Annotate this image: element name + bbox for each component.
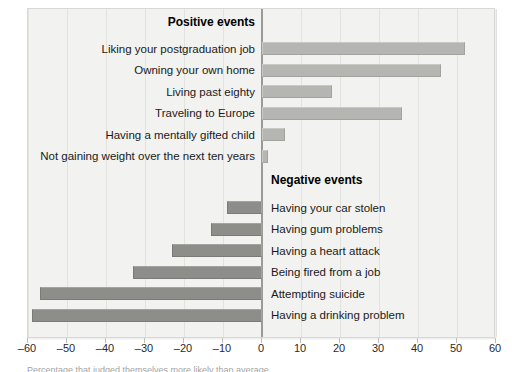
plot-area: Liking your postgraduation jobOwning you… (27, 8, 495, 338)
category-label: Owning your own home (134, 64, 255, 77)
category-label: Having a mentally gifted child (105, 129, 255, 142)
bar (262, 42, 465, 55)
bar (227, 201, 262, 214)
x-tick-label: 10 (283, 342, 317, 355)
x-tick-label: 20 (322, 342, 356, 355)
category-label: Attempting suicide (271, 288, 365, 301)
group-heading-negative: Negative events (271, 173, 362, 187)
bar (172, 244, 262, 257)
category-label: Having gum problems (271, 223, 383, 236)
category-label: Being fired from a job (271, 266, 380, 279)
category-label: Having a heart attack (271, 245, 380, 258)
x-tick-label: –50 (49, 342, 83, 355)
chart-footnote: Percentage that judged themselves more l… (27, 365, 269, 372)
x-tick-label: –10 (205, 342, 239, 355)
x-tick-label: –20 (166, 342, 200, 355)
bar (133, 266, 262, 279)
x-tick-label: 50 (439, 342, 473, 355)
bar (32, 309, 262, 322)
x-tick-label: 30 (361, 342, 395, 355)
gridline (379, 9, 380, 337)
gridline (28, 9, 29, 337)
horizontal-bar-chart: Liking your postgraduation jobOwning you… (0, 0, 516, 372)
gridline (418, 9, 419, 337)
x-tick-label: 60 (478, 342, 512, 355)
category-label: Traveling to Europe (155, 107, 255, 120)
category-label: Living past eighty (166, 86, 255, 99)
x-tick-label: –60 (10, 342, 44, 355)
category-label: Liking your postgraduation job (102, 43, 255, 56)
x-tick-label: –30 (127, 342, 161, 355)
category-label: Having a drinking problem (271, 309, 405, 322)
gridline (496, 9, 497, 337)
bar (262, 64, 441, 77)
bar (262, 128, 285, 141)
category-label: Not gaining weight over the next ten yea… (40, 150, 255, 163)
bar (262, 150, 268, 163)
gridline (457, 9, 458, 337)
category-label: Having your car stolen (271, 202, 385, 215)
group-heading-positive: Positive events (168, 15, 255, 29)
x-tick-label: 40 (400, 342, 434, 355)
bar (40, 287, 262, 300)
x-tick-label: –40 (88, 342, 122, 355)
bar (262, 107, 402, 120)
bar (211, 223, 262, 236)
bar (262, 85, 332, 98)
x-tick-label: 0 (244, 342, 278, 355)
